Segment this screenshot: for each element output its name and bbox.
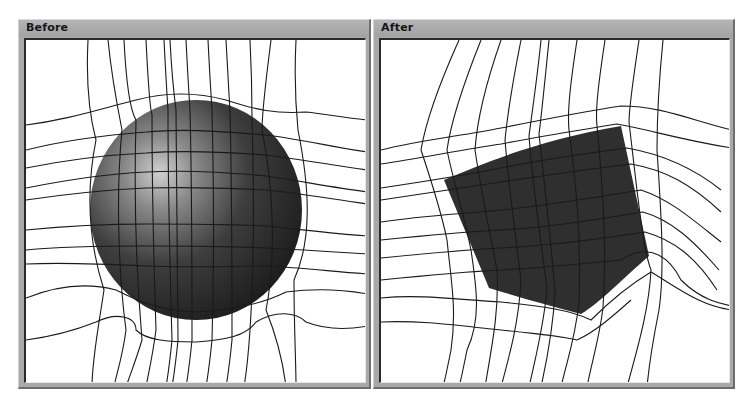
sphere-deformation-view [26,40,366,383]
cube-deformation-view [381,40,730,383]
after-canvas[interactable] [379,38,730,383]
before-titlebar[interactable]: Before [19,20,369,37]
after-panel: After [373,19,735,389]
after-title: After [381,21,413,34]
after-titlebar[interactable]: After [374,20,733,37]
before-panel: Before [18,19,371,389]
before-canvas[interactable] [24,38,366,383]
before-title: Before [26,21,68,34]
